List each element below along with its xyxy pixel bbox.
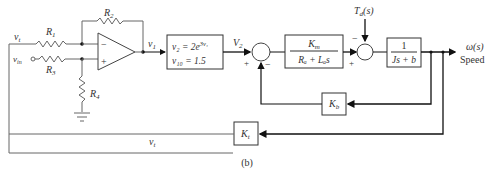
r4-label: R4: [89, 88, 100, 101]
vt-input-label: vt: [14, 31, 21, 44]
motor-speed-control-diagram: vt R1 R2 R3 R4 vin − + v1 v₂ = 2e3v₁ v₁₀…: [0, 0, 491, 171]
svg-text:Rₐ + Lₐs: Rₐ + Lₐs: [297, 55, 330, 65]
kb-block: Kb: [322, 93, 346, 115]
r3-label: R3: [45, 64, 56, 77]
ground-icon: [74, 113, 90, 121]
vt-feedback-label: vt: [149, 136, 156, 149]
load-transfer-block: 1 Js + b: [387, 38, 421, 67]
kt-block: Kt: [234, 122, 258, 145]
svg-text:1: 1: [402, 40, 407, 51]
v2-label: V2: [233, 37, 243, 50]
resistor-r3: [31, 56, 82, 62]
r1-label: R1: [45, 26, 56, 39]
opamp-circuit: vt R1 R2 R3 R4 vin − + v1: [9, 7, 233, 153]
svg-text:+: +: [349, 58, 354, 68]
figure-caption: (b): [241, 157, 253, 169]
opamp-plus: +: [101, 56, 107, 67]
v1-label: v1: [148, 38, 156, 51]
resistor-r4: [79, 59, 85, 112]
svg-text:Js + b: Js + b: [392, 55, 416, 65]
output-label: ω(s): [466, 41, 484, 53]
svg-text:+: +: [244, 58, 249, 68]
motor-transfer-block: Km Rₐ + Lₐs: [285, 35, 343, 68]
summing-junction-1: + −: [244, 43, 271, 70]
output-sublabel: Speed: [460, 54, 484, 65]
svg-text:v₁₀ = 1.5: v₁₀ = 1.5: [172, 56, 206, 66]
vin-label: vin: [13, 54, 22, 65]
svg-text:−: −: [265, 59, 271, 70]
svg-text:−: −: [352, 33, 358, 44]
nonlinear-block: v₂ = 2e3v₁ v₁₀ = 1.5: [167, 35, 223, 69]
summing-junction-2: − +: [349, 33, 373, 68]
opamp-minus: −: [101, 39, 107, 50]
disturbance-label: Td(s): [354, 5, 374, 18]
resistor-r1: [36, 41, 82, 47]
